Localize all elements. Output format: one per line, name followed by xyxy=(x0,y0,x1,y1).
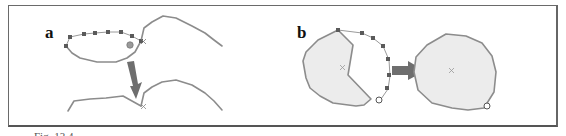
panel-b-endpoint-icon xyxy=(376,97,382,103)
figure-artwork xyxy=(0,0,566,136)
panel-a-upper-arch xyxy=(141,16,222,46)
panel-b-label: b xyxy=(297,24,306,41)
panel-a-down-arrow-icon xyxy=(127,61,142,99)
panel-a-cursor-point-icon xyxy=(127,42,133,48)
figure-caption-clipped: Fig. 13.4. xyxy=(34,130,76,136)
panel-a xyxy=(66,16,222,111)
panel-a-label: a xyxy=(45,24,54,41)
panel-b-result-shape xyxy=(414,34,496,110)
panel-b-source-shape xyxy=(303,30,371,106)
panel-a-result-right xyxy=(141,80,222,110)
panel-b-result-endpoint-icon xyxy=(484,103,490,109)
panel-a-result-cross-icon xyxy=(141,104,146,109)
panel-a-result-left xyxy=(68,96,141,111)
